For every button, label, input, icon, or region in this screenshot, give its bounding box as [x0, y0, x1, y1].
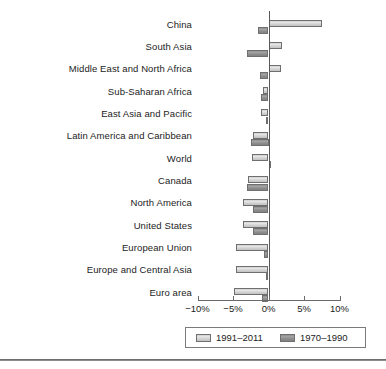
light-gray-swatch-icon: [196, 334, 211, 342]
x-axis-tick-label-3: 5%: [284, 303, 324, 315]
bar-east-asia-and-pacific-1991-2011: [261, 109, 269, 116]
category-label-world: World: [167, 153, 192, 164]
legend-entry-1970-1990: 1970–1990: [280, 332, 348, 343]
x-axis-tick-2: [269, 296, 270, 301]
legend-label-1970-1990: 1970–1990: [300, 332, 348, 343]
bar-united-states-1991-2011: [243, 221, 269, 228]
bar-canada-1970-1990: [247, 184, 268, 191]
bar-world-1991-2011: [252, 154, 268, 161]
zero-axis-line: [269, 11, 270, 300]
category-label-canada: Canada: [158, 175, 192, 186]
chart-legend: 1991–2011 1970–1990: [185, 327, 366, 348]
category-label-european-union: European Union: [122, 242, 192, 253]
x-axis-tick-label-0: −10%: [178, 303, 218, 315]
x-axis-tick-label-2: 0%: [249, 303, 289, 315]
bar-china-1970-1990: [258, 27, 269, 34]
bar-south-asia-1991-2011: [269, 42, 282, 49]
legend-label-1991-2011: 1991–2011: [216, 332, 263, 343]
category-label-latin-america-and-caribbean: Latin America and Caribbean: [67, 130, 192, 141]
plot-area: China South Asia Middle East and North A…: [0, 0, 386, 310]
bar-european-union-1991-2011: [236, 244, 269, 251]
x-axis-tick-1: [233, 296, 234, 301]
x-axis-tick-label-4: 10%: [320, 303, 360, 315]
bar-chart-figure: China South Asia Middle East and North A…: [0, 0, 386, 369]
bar-latin-america-and-caribbean-1991-2011: [253, 132, 269, 139]
bar-middle-east-and-north-africa-1970-1990: [260, 72, 269, 79]
x-axis-tick-label-1: −5%: [213, 303, 253, 315]
bar-sub-saharan-africa-1970-1990: [261, 94, 269, 101]
category-label-middle-east-and-north-africa: Middle East and North Africa: [69, 63, 192, 74]
category-label-east-asia-and-pacific: East Asia and Pacific: [101, 108, 192, 119]
category-label-china: China: [167, 19, 192, 30]
bar-europe-and-central-asia-1991-2011: [236, 266, 269, 273]
bar-north-america-1991-2011: [243, 199, 269, 206]
legend-entry-1991-2011: 1991–2011: [196, 332, 263, 343]
bar-united-states-1970-1990: [253, 228, 269, 235]
bar-canada-1991-2011: [248, 176, 269, 183]
bar-euro-area-1991-2011: [234, 288, 268, 295]
x-axis-tick-0: [198, 296, 199, 301]
category-label-south-asia: South Asia: [146, 41, 192, 52]
category-label-united-states: United States: [134, 220, 192, 231]
category-label-euro-area: Euro area: [149, 287, 192, 298]
category-label-europe-and-central-asia: Europe and Central Asia: [87, 264, 192, 275]
dark-gray-swatch-icon: [280, 334, 295, 342]
x-axis-tick-4: [340, 296, 341, 301]
category-label-north-america: North America: [131, 197, 193, 208]
category-label-sub-saharan-africa: Sub-Saharan Africa: [108, 86, 192, 97]
bar-middle-east-and-north-africa-1991-2011: [269, 65, 281, 72]
bar-north-america-1970-1990: [253, 206, 269, 213]
bar-latin-america-and-caribbean-1970-1990: [251, 139, 269, 146]
bar-south-asia-1970-1990: [247, 50, 268, 57]
bar-china-1991-2011: [269, 20, 322, 27]
bottom-divider: [0, 359, 386, 361]
x-axis-tick-3: [304, 296, 305, 301]
